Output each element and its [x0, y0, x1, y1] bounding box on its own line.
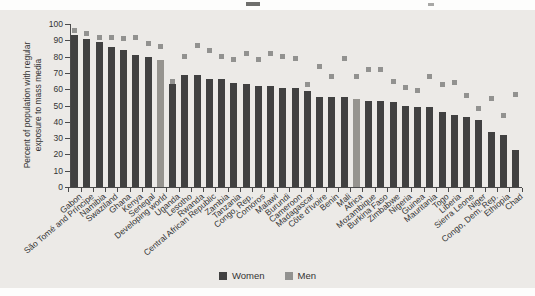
- y-tick: [65, 122, 70, 123]
- men-marker: [280, 54, 285, 59]
- women-bar: [365, 101, 372, 187]
- women-bar: [341, 97, 348, 187]
- women-bar: [439, 112, 446, 187]
- cropped-title-fragment: [428, 3, 434, 6]
- women-bar: [71, 35, 78, 187]
- legend: Women Men: [0, 270, 535, 281]
- x-tick: [399, 188, 400, 192]
- x-tick: [289, 188, 290, 192]
- x-tick: [362, 188, 363, 192]
- men-marker: [72, 28, 77, 33]
- y-tick-label: 100: [37, 20, 63, 29]
- y-tick: [65, 171, 70, 172]
- men-marker: [244, 51, 249, 56]
- men-marker: [452, 80, 457, 85]
- x-tick: [264, 188, 265, 192]
- men-marker: [366, 67, 371, 72]
- men-marker: [415, 88, 420, 93]
- x-tick: [154, 188, 155, 192]
- y-tick-label: 70: [37, 69, 63, 78]
- y-tick-label: 0: [37, 183, 63, 192]
- women-bar: [475, 120, 482, 187]
- women-bar: [463, 117, 470, 187]
- x-tick: [142, 188, 143, 192]
- x-tick: [375, 188, 376, 192]
- x-axis-line: [70, 187, 522, 188]
- men-marker: [219, 54, 224, 59]
- x-tick: [350, 188, 351, 192]
- men-marker: [84, 31, 89, 36]
- women-bar: [304, 91, 311, 187]
- men-marker: [354, 74, 359, 79]
- women-bar: [169, 84, 176, 187]
- legend-item-men: Men: [285, 270, 316, 281]
- men-marker: [268, 51, 273, 56]
- x-tick: [117, 188, 118, 192]
- women-bar: [218, 79, 225, 187]
- y-tick-label: 30: [37, 134, 63, 143]
- y-tick-label: 20: [37, 150, 63, 159]
- men-marker: [97, 35, 102, 40]
- men-marker: [440, 82, 445, 87]
- y-tick: [65, 57, 70, 58]
- women-bar: [426, 107, 433, 187]
- x-tick: [93, 188, 94, 192]
- cropped-title-fragment: [246, 2, 260, 6]
- y-tick: [65, 24, 70, 25]
- x-tick: [130, 188, 131, 192]
- x-tick: [473, 188, 474, 192]
- women-bar: [402, 106, 409, 188]
- x-tick: [313, 188, 314, 192]
- legend-label-women: Women: [232, 270, 265, 281]
- x-tick: [277, 188, 278, 192]
- women-bar: [451, 115, 458, 187]
- x-tick: [387, 188, 388, 192]
- women-bar: [390, 102, 397, 187]
- men-swatch-icon: [285, 272, 293, 280]
- women-bar: [488, 132, 495, 187]
- x-tick: [166, 188, 167, 192]
- men-marker: [329, 74, 334, 79]
- women-bar: [194, 75, 201, 187]
- women-bar: [145, 57, 152, 187]
- women-swatch-icon: [219, 272, 227, 280]
- men-marker: [146, 41, 151, 46]
- y-tick: [65, 89, 70, 90]
- men-marker: [317, 64, 322, 69]
- x-tick: [411, 188, 412, 192]
- women-bar: [206, 79, 213, 187]
- men-marker: [207, 48, 212, 53]
- men-marker: [305, 82, 310, 87]
- men-marker: [342, 56, 347, 61]
- y-tick: [65, 154, 70, 155]
- women-bar: [328, 97, 335, 187]
- men-marker: [427, 74, 432, 79]
- men-marker: [513, 92, 518, 97]
- legend-label-men: Men: [298, 270, 316, 281]
- x-tick: [497, 188, 498, 192]
- women-bar: [108, 47, 115, 187]
- men-marker: [121, 36, 126, 41]
- men-marker: [489, 96, 494, 101]
- x-tick: [240, 188, 241, 192]
- women-bar: [377, 101, 384, 187]
- y-tick-label: 60: [37, 85, 63, 94]
- women-bar: [83, 39, 90, 187]
- x-tick: [301, 188, 302, 192]
- men-marker: [378, 67, 383, 72]
- men-marker: [293, 56, 298, 61]
- figure: Percent of population with regular expos…: [0, 0, 535, 296]
- men-marker: [182, 54, 187, 59]
- x-tick: [105, 188, 106, 192]
- y-tick-label: 40: [37, 118, 63, 127]
- men-marker: [501, 113, 506, 118]
- women-bar: [414, 107, 421, 187]
- x-tick: [338, 188, 339, 192]
- x-tick: [424, 188, 425, 192]
- y-tick-label: 80: [37, 53, 63, 62]
- y-tick: [65, 138, 70, 139]
- women-bar: [243, 84, 250, 187]
- x-tick: [448, 188, 449, 192]
- women-bar: [230, 83, 237, 187]
- women-bar: [132, 55, 139, 187]
